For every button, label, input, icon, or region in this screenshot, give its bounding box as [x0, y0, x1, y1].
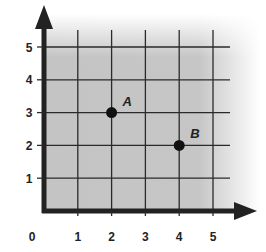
- y-tick-label: 1: [26, 172, 33, 186]
- x-tick-label: 1: [74, 230, 81, 244]
- x-tick-label: 3: [142, 230, 149, 244]
- point-label-A: A: [122, 94, 132, 109]
- x-tick-label: 5: [210, 230, 217, 244]
- y-tick-label: 5: [26, 41, 33, 55]
- point-A: [106, 107, 117, 118]
- origin-label: 0: [29, 230, 36, 244]
- y-tick-label: 2: [26, 139, 33, 153]
- y-tick-label: 3: [26, 106, 33, 120]
- point-label-B: B: [190, 126, 199, 141]
- y-tick-label: 4: [26, 73, 33, 87]
- coordinate-plane: 0 1234512345 AB: [0, 0, 266, 252]
- x-tick-label: 4: [176, 230, 183, 244]
- point-B: [174, 140, 185, 151]
- x-tick-label: 2: [108, 230, 115, 244]
